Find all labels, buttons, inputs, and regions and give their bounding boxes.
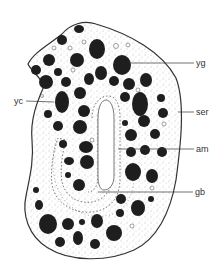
label-gb: gb — [195, 187, 205, 197]
embryo-cross-section-diagram — [0, 0, 224, 276]
label-yg: yg — [196, 58, 206, 68]
label-am: am — [196, 144, 209, 154]
amnion-cavity — [98, 100, 114, 190]
label-ser: ser — [196, 107, 209, 117]
label-yc: yc — [14, 96, 23, 106]
